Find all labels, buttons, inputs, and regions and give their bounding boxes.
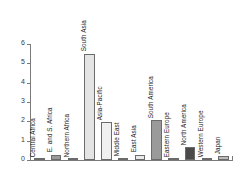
y-axis-tick-line xyxy=(27,102,30,103)
y-axis-tick-label: 5 xyxy=(21,58,25,65)
bar[interactable] xyxy=(34,158,44,160)
bar-chart: 0123456 Central AfricaE. and S. AfricaNo… xyxy=(0,0,237,173)
y-axis-tick-label: 1 xyxy=(21,136,25,143)
y-axis-tick-label: 6 xyxy=(21,39,25,46)
bar-category-label: Western Europe xyxy=(197,110,203,157)
y-axis-tick: 5 xyxy=(0,63,30,64)
y-axis-tick-label: 3 xyxy=(21,97,25,104)
bar-group[interactable]: Asia-Pacific xyxy=(101,44,111,160)
y-axis-tick-label: 0 xyxy=(21,155,25,162)
bar[interactable] xyxy=(84,54,94,160)
y-axis-tick: 3 xyxy=(0,102,30,103)
bar-category-label: North America xyxy=(181,104,187,145)
y-axis-tick: 4 xyxy=(0,83,30,84)
bar-category-label: East Asia xyxy=(130,126,136,153)
bar-category-label: Eastern Europe xyxy=(164,112,170,157)
y-axis-tick-label: 4 xyxy=(21,78,25,85)
bar-group[interactable]: Western Europe xyxy=(202,44,212,160)
bar[interactable] xyxy=(118,158,128,160)
y-axis-tick-label: 2 xyxy=(21,116,25,123)
bar[interactable] xyxy=(185,147,195,160)
bar-group[interactable]: Japan xyxy=(218,44,228,160)
y-axis-tick-line xyxy=(27,83,30,84)
bar[interactable] xyxy=(135,155,145,160)
bar-category-label: E. and S. Africa xyxy=(47,108,53,153)
bar[interactable] xyxy=(168,158,178,160)
bar-category-label: Japan xyxy=(214,136,220,154)
x-axis-end-tick xyxy=(232,156,233,161)
bar-category-label: Northern Africa xyxy=(63,113,69,157)
bar[interactable] xyxy=(202,158,212,160)
bars-layer: Central AfricaE. and S. AfricaNorthern A… xyxy=(31,44,232,160)
bar[interactable] xyxy=(218,156,228,160)
y-axis-tick: 0 xyxy=(0,160,30,161)
bar-category-label: South America xyxy=(147,76,153,118)
y-axis-tick-line xyxy=(27,160,30,161)
bar-group[interactable]: Middle East xyxy=(118,44,128,160)
bar-category-label: South Asia xyxy=(80,21,86,52)
bar[interactable] xyxy=(101,122,111,160)
bar[interactable] xyxy=(68,158,78,160)
bar-group[interactable]: Central Africa xyxy=(34,44,44,160)
bar-group[interactable]: South Asia xyxy=(84,44,94,160)
bar-group[interactable]: E. and S. Africa xyxy=(51,44,61,160)
bar-group[interactable]: East Asia xyxy=(135,44,145,160)
bar-group[interactable]: South America xyxy=(151,44,161,160)
bar-category-label: Central Africa xyxy=(30,118,36,157)
bar-category-label: Middle East xyxy=(114,122,120,156)
bar-group[interactable]: Eastern Europe xyxy=(168,44,178,160)
y-axis-tick-line xyxy=(27,63,30,64)
bar-group[interactable]: North America xyxy=(185,44,195,160)
y-axis-tick-line xyxy=(27,44,30,45)
bar[interactable] xyxy=(151,120,161,160)
y-axis-tick: 2 xyxy=(0,121,30,122)
bar-category-label: Asia-Pacific xyxy=(97,86,103,120)
y-axis-tick: 6 xyxy=(0,44,30,45)
bar[interactable] xyxy=(51,155,61,160)
bar-group[interactable]: Northern Africa xyxy=(68,44,78,160)
y-axis-tick: 1 xyxy=(0,141,30,142)
